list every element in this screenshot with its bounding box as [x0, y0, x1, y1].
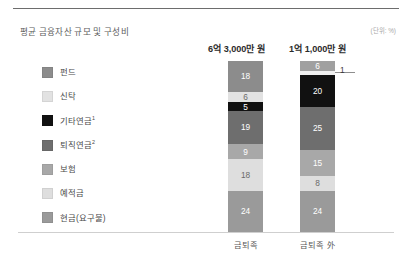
bar-segment-value: 18	[241, 171, 250, 179]
bar-segment[interactable]: 6	[228, 92, 263, 102]
bar-segment[interactable]: 6	[300, 61, 335, 71]
bar-segment[interactable]: 24	[228, 191, 263, 232]
legend-color-swatch	[42, 67, 53, 78]
legend-item-label: 예적금	[60, 189, 84, 197]
bar-segment[interactable]: 5	[228, 102, 263, 111]
legend-item[interactable]: 보험	[42, 157, 192, 181]
bar-segment[interactable]: 18	[228, 61, 263, 92]
legend-footnote-marker: 2	[92, 139, 95, 145]
legend-item-label: 기타연금1	[60, 116, 95, 125]
bar-segment-value: 8	[315, 179, 320, 187]
legend-color-swatch	[42, 212, 53, 223]
legend-item-label: 퇴직연금2	[60, 140, 95, 149]
bar-segment-value: 18	[241, 72, 250, 80]
category-label-2: 금퇴족 外	[280, 238, 355, 250]
legend-item-label: 펀드	[60, 68, 76, 76]
bar-segment[interactable]: 25	[300, 107, 335, 150]
legend-item-label: 신탁	[60, 92, 76, 100]
legend-item[interactable]: 기타연금1	[42, 109, 192, 133]
legend-color-swatch	[42, 188, 53, 199]
legend-item[interactable]: 퇴직연금2	[42, 133, 192, 157]
bar-segment-value: 25	[313, 124, 322, 132]
stacked-bar-geumtwejok: 18651991824	[228, 61, 263, 232]
bar-segment-value: 15	[313, 159, 322, 167]
legend-color-swatch	[42, 140, 53, 151]
bar-segment[interactable]: 15	[300, 150, 335, 176]
legend-item[interactable]: 현금(요구불)	[42, 206, 192, 230]
bar-segment[interactable]: 8	[300, 176, 335, 191]
legend-item[interactable]: 신탁	[42, 84, 192, 108]
bar-segment-value: 19	[241, 123, 250, 131]
bar-segment-value: 24	[241, 207, 250, 215]
legend-footnote-marker: 1	[92, 115, 95, 121]
bar-segment-value: 9	[243, 148, 248, 156]
stacked-bar-geumtwejok-outside: 61202515824	[300, 61, 335, 232]
legend-item[interactable]: 펀드	[42, 60, 192, 84]
bar-segment[interactable]: 18	[228, 159, 263, 190]
column-header-total-2: 1억 1,000만 원	[280, 41, 355, 55]
bar-segment-value: 5	[243, 103, 248, 111]
bar-segment-value: 1	[340, 66, 345, 74]
unit-note: (단위: %)	[371, 26, 397, 35]
column-header-total-1: 6억 3,000만 원	[199, 41, 274, 55]
category-label-1: 금퇴족	[208, 238, 283, 250]
legend-color-swatch	[42, 115, 53, 126]
bar-segment-value: 6	[315, 62, 320, 70]
bar-segment[interactable]: 19	[228, 111, 263, 144]
bar-segment-value: 24	[313, 207, 322, 215]
top-divider	[13, 8, 399, 9]
callout-leader-line	[335, 72, 355, 73]
chart-legend: 펀드신탁기타연금1퇴직연금2보험예적금현금(요구불)	[42, 60, 192, 230]
chart-figure: 평균 금융자산 규모 및 구성비 (단위: %) 펀드신탁기타연금1퇴직연금2보…	[0, 0, 412, 264]
legend-item-label: 현금(요구불)	[60, 214, 106, 222]
bar-segment[interactable]: 24	[300, 191, 335, 232]
bar-segment[interactable]: 9	[228, 144, 263, 160]
legend-item-label: 보험	[60, 165, 76, 173]
legend-color-swatch	[42, 164, 53, 175]
bar-segment-value: 6	[243, 93, 248, 101]
legend-color-swatch	[42, 91, 53, 102]
page-title: 평균 금융자산 규모 및 구성비	[20, 25, 129, 37]
axis-baseline	[18, 232, 394, 233]
bar-segment[interactable]: 20	[300, 75, 335, 107]
bar-segment-value: 20	[313, 87, 322, 95]
legend-item[interactable]: 예적금	[42, 181, 192, 205]
